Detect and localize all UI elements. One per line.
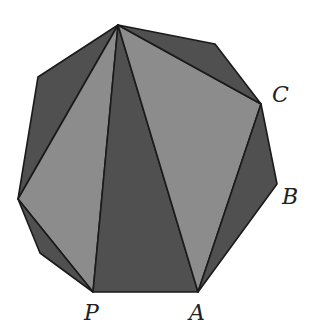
vertex-label-a: A (187, 300, 205, 325)
vertex-label-b: B (281, 184, 298, 209)
triangles-group (18, 25, 277, 292)
vertex-label-c: C (272, 82, 289, 107)
vertex-label-p: P (83, 300, 100, 325)
nonagon-diagram: CBAP (0, 0, 312, 330)
